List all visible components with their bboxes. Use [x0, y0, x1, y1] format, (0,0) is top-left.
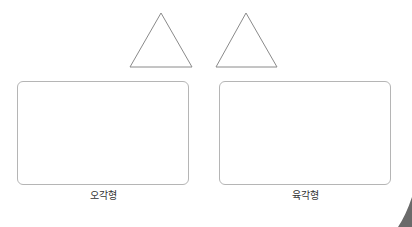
page-curl-decoration — [392, 197, 412, 227]
answer-box-pentagon[interactable] — [17, 81, 189, 185]
answer-box-hexagon[interactable] — [219, 81, 391, 185]
triangles-illustration — [0, 0, 412, 80]
triangle-icon — [130, 13, 192, 67]
hexagon-label: 육각형 — [219, 187, 391, 202]
pentagon-label: 오각형 — [17, 187, 189, 202]
triangle-icon — [216, 13, 277, 67]
